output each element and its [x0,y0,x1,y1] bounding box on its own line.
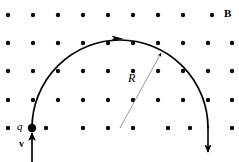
field-dot [106,13,110,17]
particle-trajectory-arc [32,40,208,128]
physics-figure: B R q v [0,0,239,162]
field-dot [181,41,185,45]
field-dot [6,41,10,45]
field-dot [31,98,35,102]
velocity-label: v [19,139,24,149]
field-dot [81,98,85,102]
field-dot [31,69,35,73]
field-dot [56,69,60,73]
field-dot [166,126,170,130]
field-dot [230,41,234,45]
field-dot [6,69,10,73]
radius-arrow [120,53,161,128]
field-dot [81,126,85,130]
field-dot [6,98,10,102]
field-dot [156,98,160,102]
field-dot [56,41,60,45]
field-dot [81,41,85,45]
field-dot [131,126,135,130]
field-dot [181,98,185,102]
field-dot [81,69,85,73]
field-dot [206,98,210,102]
field-dot [210,13,214,17]
magnetic-field-dot-grid [6,13,234,130]
field-dot [156,41,160,45]
field-dot [56,13,60,17]
field-dot [131,13,135,17]
magnetic-field-label: B [224,8,231,19]
field-dot [206,69,210,73]
charge-marker [28,124,36,132]
field-dot [106,98,110,102]
field-dot [230,69,234,73]
field-dot [106,69,110,73]
field-dot [31,41,35,45]
figure-canvas [0,0,239,162]
field-dot [156,13,160,17]
field-dot [156,69,160,73]
field-dot [230,126,234,130]
field-dot [181,69,185,73]
field-dot [230,98,234,102]
field-dot [188,126,192,130]
field-dot [6,13,10,17]
field-dot [44,126,48,130]
charge-label: q [17,121,23,132]
field-dot [206,41,210,45]
field-dot [181,13,185,17]
field-dot [106,126,110,130]
radius-label: R [128,72,135,84]
field-dot [81,13,85,17]
field-dot [6,126,10,130]
field-dot [31,13,35,17]
field-dot [56,98,60,102]
